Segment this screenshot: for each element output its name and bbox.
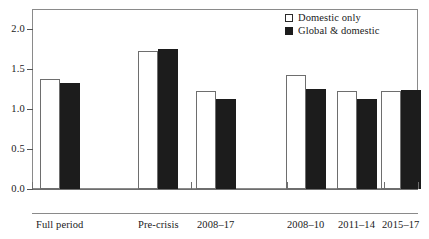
bar-global	[401, 90, 421, 189]
group-separator-tick	[191, 182, 192, 189]
y-tick-mark	[27, 29, 33, 30]
y-tick-label: 1.5	[0, 64, 25, 75]
group-separator-tick	[337, 182, 338, 189]
x-axis-baseline	[32, 189, 418, 190]
legend-label-global-and-domestic: Global & domestic	[298, 24, 380, 37]
group-separator-tick	[32, 182, 33, 189]
y-tick-label: 0.0	[0, 184, 25, 195]
group-separator-tick	[138, 182, 139, 189]
bar-global	[357, 99, 377, 189]
legend-item-domestic-only: Domestic only	[285, 11, 380, 24]
legend-label-domestic-only: Domestic only	[298, 11, 361, 24]
y-tick-mark	[27, 149, 33, 150]
y-tick-label: 0.5	[0, 144, 25, 155]
y-axis-line	[32, 9, 33, 190]
x-axis-label: 2008–17	[197, 219, 234, 231]
bar-global	[158, 49, 178, 189]
bar-domestic	[337, 91, 357, 189]
x-axis-label: 2008–10	[287, 219, 324, 231]
x-axis-label: 2011–14	[338, 219, 375, 231]
y-tick-mark	[27, 109, 33, 110]
bar-domestic	[138, 51, 158, 189]
bar-domestic	[381, 91, 401, 189]
x-axis-label: Full period	[36, 219, 83, 231]
bar-domestic	[40, 79, 60, 189]
legend-item-global-and-domestic: Global & domestic	[285, 24, 380, 37]
group-separator-tick	[418, 182, 419, 189]
y-tick-label: 1.0	[0, 104, 25, 115]
bar-global	[60, 83, 80, 189]
filled-square-icon	[285, 27, 293, 35]
x-axis-rule	[32, 213, 418, 214]
group-separator-tick	[287, 182, 288, 189]
y-tick-mark	[27, 189, 33, 190]
bar-global	[306, 89, 326, 189]
y-tick-mark	[27, 69, 33, 70]
group-separator-tick	[384, 182, 385, 189]
x-axis-label: Pre-crisis	[138, 219, 179, 231]
open-square-icon	[285, 14, 293, 22]
chart-legend: Domestic only Global & domestic	[285, 11, 380, 37]
bar-chart-figure: 2.01.51.00.50.0 Domestic only Global & d…	[0, 0, 429, 239]
x-axis-label: 2015–17	[382, 219, 419, 231]
bar-domestic	[286, 75, 306, 189]
y-tick-label: 2.0	[0, 24, 25, 35]
bar-global	[216, 99, 236, 189]
bar-domestic	[196, 91, 216, 189]
